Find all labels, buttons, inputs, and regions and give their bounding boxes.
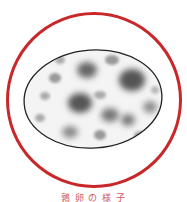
caption-text: 鶉 卵 の 様 子 (0, 193, 187, 202)
speckled-egg-illustration (0, 0, 187, 202)
